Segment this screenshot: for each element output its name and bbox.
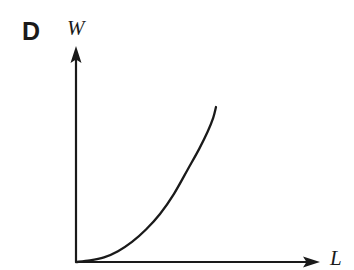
plot-area (0, 0, 354, 270)
figure-panel: D W L (0, 0, 354, 270)
x-axis-label: L (330, 248, 342, 269)
y-axis-label: W (67, 18, 85, 39)
data-curve (76, 107, 216, 262)
